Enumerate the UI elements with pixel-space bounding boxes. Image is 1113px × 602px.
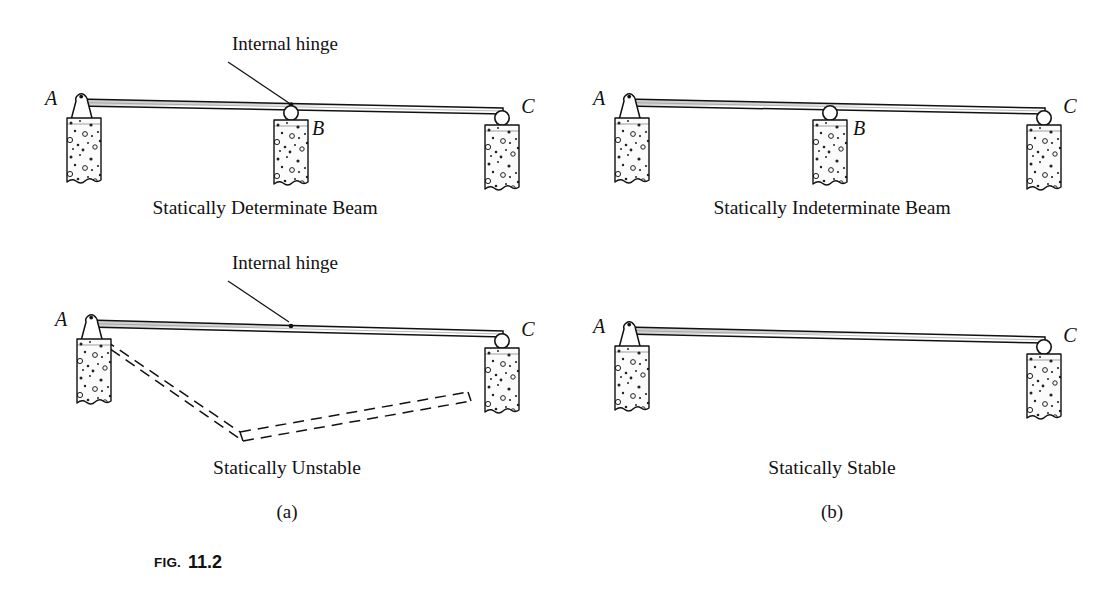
label-point-b: B: [312, 117, 324, 139]
label-point-c: C: [1063, 324, 1077, 346]
caption-statically-determinate: Statically Determinate Beam: [152, 197, 377, 218]
subfigure-label-b: (b): [821, 501, 843, 523]
figure-number-prefix: FIG.: [154, 555, 181, 570]
figure-number-value: 11.2: [188, 552, 222, 572]
label-point-a: A: [43, 87, 58, 109]
label-point-a: A: [591, 315, 606, 337]
label-point-c: C: [1063, 95, 1077, 117]
label-point-c: C: [521, 95, 535, 117]
page-background: [0, 0, 1113, 602]
label-point-a: A: [591, 87, 606, 109]
subfigure-label-a: (a): [276, 501, 297, 523]
label-point-c: C: [521, 318, 535, 340]
figure-container: A B C Internal hinge Statically Determin…: [0, 0, 1113, 602]
label-point-b: B: [853, 117, 865, 139]
annotation-internal-hinge: Internal hinge: [232, 33, 338, 54]
caption-statically-unstable: Statically Unstable: [213, 457, 361, 478]
internal-hinge-marker: [289, 324, 294, 329]
caption-statically-stable: Statically Stable: [768, 457, 895, 478]
annotation-internal-hinge: Internal hinge: [232, 252, 338, 273]
figure-canvas: A B C Internal hinge Statically Determin…: [0, 0, 1113, 602]
label-point-a: A: [53, 308, 68, 330]
caption-statically-indeterminate: Statically Indeterminate Beam: [713, 197, 950, 218]
figure-number: FIG. 11.2: [154, 552, 222, 572]
